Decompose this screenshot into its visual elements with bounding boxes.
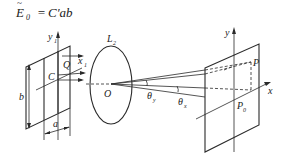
formula-lhs-symbol: E [15,5,24,20]
aperture: y 1 x 1 Q C b a [19,31,87,140]
screen-plane [205,44,259,152]
dashed-lower-to-p [205,62,251,74]
screen-y-arrowhead-icon [232,27,236,34]
ray-to-p-lower [111,74,205,84]
formula-equals: = [37,5,46,20]
a-arrow-right-icon [64,127,70,130]
aperture-x-label: x [77,55,83,66]
center-c-label: C [48,71,55,82]
aperture-y-arrowhead-icon [56,31,60,38]
theta-x-label: θ [178,96,183,107]
c-arrowhead-icon [78,78,84,82]
lens-label: L [106,33,113,44]
screen: y x P P 0 [196,27,273,152]
optics-diagram: ~ E 0 = C′ab y 1 x 1 Q C [0,0,290,165]
point-q-label: Q [63,59,71,70]
theta-y-label: θ [147,90,152,101]
screen-y-label: y [224,27,230,38]
theta-y-subscript: y [152,97,156,103]
ray-to-p-upper [111,70,205,84]
aperture-x-line [36,68,82,90]
aperture-x-subscript: 1 [84,62,87,68]
lens-center-o-label: O [104,88,111,99]
a-arrow-left-icon [44,131,50,134]
formula-lhs-subscript: 0 [26,13,30,22]
formula-rhs: C′ab [48,5,73,20]
height-b-label: b [19,91,24,102]
rays: θ y θ x [111,70,205,109]
q-arrowhead-icon [80,71,86,75]
lens-label-subscript: 2 [113,40,116,46]
point-p0-subscript: 0 [243,107,246,113]
aperture-y-subscript: 1 [54,38,57,44]
theta-x-subscript: x [183,103,187,109]
aperture-y-label: y [47,31,53,42]
point-p-label: P [252,57,259,68]
dashed-top-to-p [205,62,251,70]
width-a-label: a [53,118,58,129]
screen-x-label: x [267,85,273,96]
lens: L 2 O [86,33,132,124]
formula: ~ E 0 = C′ab [15,0,73,22]
dashed-horizontal [205,88,251,90]
